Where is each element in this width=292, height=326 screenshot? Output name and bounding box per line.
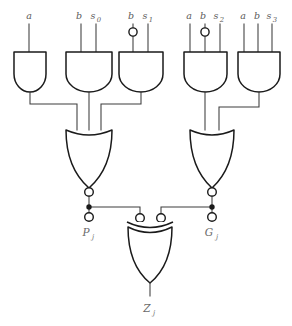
and-gate-5: [238, 52, 280, 92]
g-terminal[interactable]: [208, 213, 217, 222]
output-label-p-sub: j: [90, 233, 94, 241]
and-gate-1: [14, 52, 46, 92]
junction-dot-right: [209, 204, 214, 209]
input-label-s-sub-gate2: 0: [97, 16, 102, 24]
input-label-s-sub-gate3: 1: [149, 16, 153, 24]
input-label-a-gate4: a: [186, 10, 192, 21]
output-label-g: G: [205, 226, 213, 238]
and-to-nor-left-wires: [30, 92, 141, 130]
wire-junction-right-to-xor: [161, 207, 212, 214]
input-label-s-gate3: s: [143, 10, 148, 21]
inverter-bubble-icon-xor-input-right: [157, 214, 166, 223]
inverter-bubble-icon-gate3-b: [129, 28, 137, 36]
input-label-a-gate5: a: [240, 10, 246, 21]
nor-gate-left: [66, 130, 112, 188]
output-label-z-sub: j: [151, 309, 155, 317]
and-to-nor-right-wires: [205, 92, 259, 130]
logic-circuit-diagram: a b s 0 b s 1 a b s 2 a b s 3 P j G j Z …: [0, 0, 292, 326]
input-label-s-gate4: s: [214, 10, 219, 21]
circuit-canvas: a b s 0 b s 1 a b s 2 a b s 3 P j G j Z …: [0, 0, 292, 326]
p-terminal[interactable]: [85, 213, 94, 222]
input-label-s-sub-gate4: 2: [219, 16, 224, 24]
input-label-s-sub-gate5: 3: [273, 16, 277, 24]
input-label-a-gate1: a: [26, 10, 32, 21]
input-label-b-gate5: b: [254, 10, 260, 21]
wire-and1-to-norleft: [30, 92, 77, 130]
input-label-b-gate4: b: [200, 10, 206, 21]
input-label-s-gate5: s: [267, 10, 272, 21]
output-label-z: Z: [142, 302, 151, 314]
nor-gate-right: [190, 130, 234, 188]
junction-dot-left: [86, 204, 91, 209]
wire-junction-left-to-xor: [89, 207, 140, 214]
wire-and3-to-norleft: [101, 92, 141, 130]
xor-gate-outer-arc: [127, 222, 173, 228]
nor-output-wires: [89, 196, 212, 214]
inverter-bubble-icon-nor-left-output: [85, 188, 94, 197]
input-wires: [29, 24, 272, 52]
inverter-bubble-icon-gate4-b: [201, 28, 209, 36]
wire-and5-to-norright: [219, 92, 259, 130]
inverter-bubble-icon-xor-input-left: [136, 214, 145, 223]
inverter-bubble-icon-nor-right-output: [208, 188, 217, 197]
xor-gate-bottom: [128, 227, 172, 283]
input-label-b-gate2: b: [76, 10, 82, 21]
and-gate-3: [119, 52, 163, 92]
input-label-s-gate2: s: [91, 10, 96, 21]
input-label-b-gate3: b: [128, 10, 134, 21]
output-label-p: P: [81, 226, 90, 238]
output-label-g-sub: j: [214, 233, 218, 241]
and-gate-4: [184, 52, 227, 92]
and-gate-2: [66, 52, 112, 92]
